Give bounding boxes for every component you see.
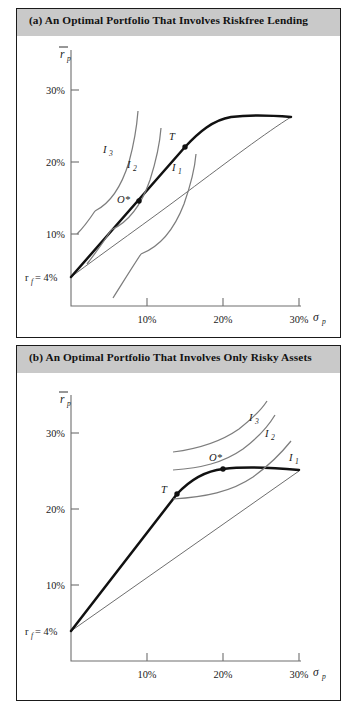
point-O-star-marker xyxy=(220,466,225,471)
y-tick-label-30: 30% xyxy=(46,85,65,96)
svg-text:3: 3 xyxy=(254,417,259,426)
panel-a-title: (a) An Optimal Portfolio That Involves R… xyxy=(29,14,308,26)
x-axis-label: σ p xyxy=(313,666,326,681)
panel-b-svg: 30% 20% 10% 10% 20% 30% r p σ p r xyxy=(17,373,342,702)
panel-a-svg: 30% 20% 10% 10% 20% 30% r p σ p xyxy=(17,36,342,339)
svg-text:= 4%: = 4% xyxy=(35,626,58,637)
indifference-curve-I1 xyxy=(141,154,196,254)
panel-b-title: (b) An Optimal Portfolio That Involves O… xyxy=(29,351,312,363)
svg-text:I: I xyxy=(126,159,131,170)
svg-text:= 4%: = 4% xyxy=(35,272,58,283)
svg-text:r: r xyxy=(25,272,29,283)
svg-text:r: r xyxy=(60,48,65,60)
indifference-curve-I2 xyxy=(111,128,161,230)
svg-text:2: 2 xyxy=(271,433,275,442)
x-tick-label-10: 10% xyxy=(137,669,156,680)
curve-label-I1: I 1 xyxy=(171,162,182,176)
svg-text:I: I xyxy=(264,428,269,439)
y-tick-label-30: 30% xyxy=(46,428,65,439)
x-tick-label-10: 10% xyxy=(137,314,156,325)
indifference-curve-I1 xyxy=(173,441,291,499)
indifference-curve-I2-tail xyxy=(87,230,111,264)
riskfree-tangent-line xyxy=(71,471,299,631)
x-tick-label-30: 30% xyxy=(289,314,308,325)
x-axis-label: σ p xyxy=(313,311,326,326)
point-T-label: T xyxy=(169,131,176,142)
panel-b: (b) An Optimal Portfolio That Involves O… xyxy=(16,345,341,701)
svg-text:r: r xyxy=(25,626,29,637)
point-T-label: T xyxy=(161,484,168,495)
svg-text:p: p xyxy=(321,317,326,326)
point-T-marker xyxy=(182,144,187,149)
axis-lines xyxy=(71,50,301,306)
svg-text:I: I xyxy=(102,144,107,155)
svg-text:1: 1 xyxy=(295,457,299,466)
figure-container: (a) An Optimal Portfolio That Involves R… xyxy=(0,0,357,711)
x-tick-label-20: 20% xyxy=(213,314,232,325)
y-tick-label-10: 10% xyxy=(46,580,65,591)
point-O-star-label: O* xyxy=(209,452,223,463)
y-tick-label-10: 10% xyxy=(46,229,65,240)
risky-asset-frontier-curve xyxy=(71,117,291,277)
svg-text:σ: σ xyxy=(313,666,320,678)
curve-label-I2: I 2 xyxy=(126,159,137,173)
riskfree-rate-label: r f = 4% xyxy=(25,626,58,640)
x-tick-label-20: 20% xyxy=(213,669,232,680)
svg-text:σ: σ xyxy=(313,311,320,323)
svg-text:I: I xyxy=(171,162,176,173)
panel-a-plot: 30% 20% 10% 10% 20% 30% r p σ p xyxy=(17,36,340,339)
x-tick-label-30: 30% xyxy=(289,669,308,680)
svg-text:1: 1 xyxy=(178,167,182,176)
svg-text:f: f xyxy=(31,631,34,640)
svg-text:I: I xyxy=(248,412,253,423)
point-O-star-marker xyxy=(136,198,141,203)
curve-label-I2: I 2 xyxy=(264,428,275,442)
indifference-curve-I1-tail xyxy=(113,254,141,298)
curve-label-I3: I 3 xyxy=(102,144,113,158)
svg-text:p: p xyxy=(321,672,326,681)
panel-b-plot: 30% 20% 10% 10% 20% 30% r p σ p r xyxy=(17,373,340,702)
svg-text:I: I xyxy=(288,452,293,463)
y-axis-label: r p xyxy=(59,47,71,63)
svg-text:r: r xyxy=(60,393,65,405)
point-T-marker xyxy=(174,491,179,496)
svg-text:f: f xyxy=(31,277,34,286)
indifference-curve-I3-tail xyxy=(77,211,95,234)
curve-label-I1: I 1 xyxy=(288,452,299,466)
indifference-curve-I2 xyxy=(173,415,275,470)
svg-text:2: 2 xyxy=(133,164,137,173)
point-O-star-label: O* xyxy=(117,194,131,205)
y-tick-label-20: 20% xyxy=(46,504,65,515)
indifference-curve-I3 xyxy=(173,401,267,452)
curve-label-I3: I 3 xyxy=(248,412,259,426)
svg-text:p: p xyxy=(66,399,71,408)
y-axis-label: r p xyxy=(59,392,71,408)
panel-a-axes xyxy=(71,50,301,306)
svg-text:p: p xyxy=(66,54,71,63)
panel-a: (a) An Optimal Portfolio That Involves R… xyxy=(16,8,341,338)
riskfree-rate-label: r f = 4% xyxy=(25,272,58,286)
svg-text:3: 3 xyxy=(108,149,113,158)
y-tick-label-20: 20% xyxy=(46,157,65,168)
